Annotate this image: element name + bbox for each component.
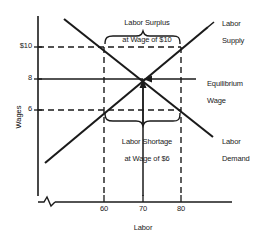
labor-demand-label-line2: Demand <box>222 154 250 163</box>
equilibrium-wage-annotation: Equilibrium Wage <box>199 72 255 114</box>
x-tick-label-60: 60 <box>92 205 116 213</box>
labor-surplus-line2: at Wage of $10 <box>122 35 171 44</box>
x-tick-label-80: 80 <box>169 205 193 213</box>
labor-surplus-line1: Labor Surplus <box>124 18 169 27</box>
labor-demand-curve-label: Labor Demand <box>214 130 256 172</box>
x-axis-break <box>38 197 55 206</box>
x-tick-label-70: 70 <box>131 205 155 213</box>
x-axis-title: Labor <box>121 224 165 232</box>
equilibrium-wage-line2: Wage <box>207 96 226 105</box>
labor-surplus-annotation: Labor Surplus at Wage of $10 <box>93 11 193 53</box>
equilibrium-wage-line1: Equilibrium <box>207 79 243 88</box>
labor-shortage-line1: Labor Shortage <box>122 137 172 146</box>
labor-supply-curve-label: Labor Supply <box>214 12 256 54</box>
labor-supply-label-line1: Labor <box>222 19 241 28</box>
y-axis-title-wrapper: Wages <box>7 94 25 140</box>
y-axis-title: Wages <box>14 105 23 128</box>
y-tick-label-10: $10 <box>8 42 32 50</box>
labor-supply-label-line2: Supply <box>222 36 244 45</box>
labor-demand-label-line1: Labor <box>222 137 241 146</box>
labor-shortage-annotation: Labor Shortage at Wage of $6 <box>93 130 193 172</box>
labor-market-diagram: $10 8 6 Wages 60 70 80 Labor Labor Surpl… <box>0 0 256 243</box>
y-tick-label-8: 8 <box>8 74 32 82</box>
labor-shortage-line2: at Wage of $6 <box>124 154 169 163</box>
